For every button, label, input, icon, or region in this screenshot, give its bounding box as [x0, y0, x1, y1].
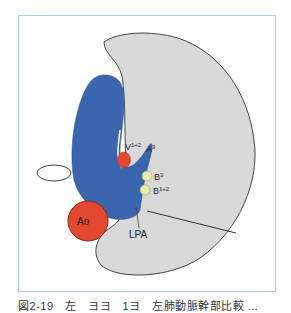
empty-ellipse-outline	[37, 165, 71, 181]
label-ao: Ao	[77, 216, 90, 227]
bronchus-b3	[142, 171, 152, 181]
bronchus-b1-2	[140, 185, 150, 195]
vein-v1-2	[118, 152, 131, 168]
figure-caption: 図2-19 左 ヨヨ 1ヨ 左肺動脈幹部比較 ...	[18, 297, 258, 313]
label-lpa: LPA	[129, 229, 147, 240]
